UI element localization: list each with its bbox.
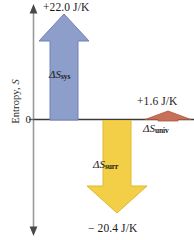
universe-entropy-arrow xyxy=(144,110,192,122)
surroundings-subscript: surr xyxy=(105,162,118,171)
universe-value-label: +1.6 J/K xyxy=(137,95,178,107)
system-symbol-label: ΔSsys xyxy=(49,68,70,81)
system-delta-s: ΔS xyxy=(49,68,61,80)
zero-tick-label: 0 xyxy=(19,112,31,126)
universe-symbol-label: ΔSuniv xyxy=(143,122,169,135)
surroundings-value-label: − 20.4 J/K xyxy=(88,222,137,234)
universe-subscript: univ xyxy=(155,126,169,135)
y-axis-title: Entropy, S xyxy=(10,62,21,142)
y-axis-title-symbol: S xyxy=(10,79,21,84)
universe-delta-s: ΔS xyxy=(143,122,155,134)
system-entropy-arrow xyxy=(38,13,90,121)
y-axis-top-arrowhead xyxy=(30,4,38,14)
surroundings-symbol-label: ΔSsurr xyxy=(93,158,118,171)
surroundings-delta-s: ΔS xyxy=(93,158,105,170)
system-value-label: +22.0 J/K xyxy=(43,1,89,13)
system-subscript: sys xyxy=(61,72,70,81)
entropy-change-diagram: Entropy, S 0 +22.0 J/K ΔSsys − 20.4 J/K … xyxy=(0,0,194,240)
universe-arrow-shape xyxy=(145,111,191,121)
y-axis-bottom-arrowhead xyxy=(30,227,38,237)
system-arrow-shape xyxy=(39,14,89,120)
